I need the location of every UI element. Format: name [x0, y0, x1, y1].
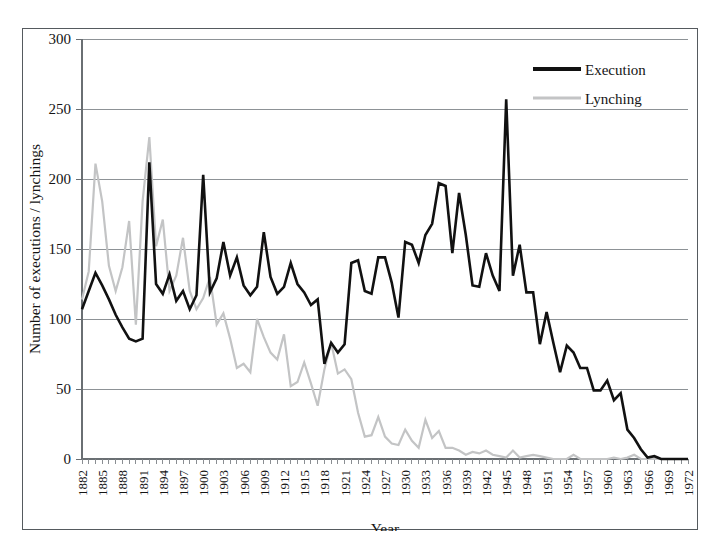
x-axis-title: Year: [371, 520, 400, 531]
y-axis-title: Number of executions / lynchings: [26, 144, 43, 354]
x-tick-label: 1909: [257, 470, 272, 496]
x-tick-label: 1885: [95, 470, 110, 496]
y-tick-label: 0: [64, 451, 72, 467]
x-tick-label: 1942: [479, 470, 494, 496]
x-tick-label: 1903: [216, 470, 231, 496]
x-tick-label: 1933: [418, 470, 433, 496]
x-tick-label: 1897: [176, 470, 191, 497]
x-tick-label: 1924: [358, 470, 373, 497]
x-tick-label: 1963: [620, 470, 635, 496]
y-tick-label: 50: [56, 381, 71, 397]
figure-container: 0501001502002503001882188518881891189418…: [0, 0, 720, 556]
x-tick-label: 1927: [378, 470, 393, 497]
chart-frame: 0501001502002503001882188518881891189418…: [22, 28, 698, 530]
x-tick-label: 1915: [297, 470, 312, 496]
x-tick-label: 1939: [459, 470, 474, 496]
legend-label-lynching: Lynching: [585, 91, 642, 107]
x-tick-label: 1918: [317, 470, 332, 496]
y-tick-label: 150: [49, 241, 72, 257]
x-tick-label: 1936: [439, 470, 454, 497]
x-tick-label: 1930: [398, 470, 413, 496]
x-tick-label: 1972: [681, 470, 696, 496]
x-tick-label: 1900: [196, 470, 211, 496]
x-tick-label: 1960: [600, 470, 615, 496]
x-tick-label: 1951: [540, 470, 555, 496]
series-line-lynching: [82, 137, 688, 459]
x-tick-label: 1948: [519, 470, 534, 496]
y-tick-label: 200: [49, 171, 72, 187]
x-tick-label: 1954: [560, 470, 575, 497]
x-tick-label: 1891: [136, 470, 151, 496]
line-chart-plot: 0501001502002503001882188518881891189418…: [23, 29, 699, 531]
y-tick-label: 300: [49, 31, 72, 47]
x-tick-label: 1945: [499, 470, 514, 496]
x-tick-label: 1912: [277, 470, 292, 496]
x-tick-label: 1921: [338, 470, 353, 496]
series-line-execution: [82, 99, 688, 459]
y-tick-label: 100: [49, 311, 72, 327]
y-tick-label: 250: [49, 101, 72, 117]
x-tick-label: 1969: [661, 470, 676, 496]
x-tick-label: 1906: [237, 470, 252, 497]
x-tick-label: 1966: [641, 470, 656, 497]
x-tick-label: 1888: [115, 470, 130, 496]
x-tick-label: 1882: [75, 470, 90, 496]
legend-label-execution: Execution: [585, 62, 646, 78]
x-tick-label: 1894: [156, 470, 171, 497]
x-tick-label: 1957: [580, 470, 595, 497]
